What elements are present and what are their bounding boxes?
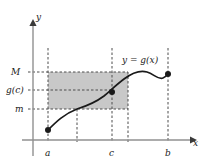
graph-canvas xyxy=(0,0,203,168)
x-tick-label-c: c xyxy=(109,149,114,158)
x-tick-label-b: b xyxy=(165,149,171,158)
point-c xyxy=(109,89,115,95)
y-tick-label-m: m xyxy=(15,105,24,114)
x-tick-label-a: a xyxy=(45,149,50,158)
curve-equation-label: y = g(x) xyxy=(122,56,158,65)
x-axis-label: x xyxy=(193,139,198,148)
y-tick-label-M: M xyxy=(11,68,20,77)
point-left-endpoint xyxy=(45,127,51,133)
y-tick-label-gc: g(c) xyxy=(6,86,24,95)
y-axis-label: y xyxy=(36,13,41,22)
point-right-endpoint xyxy=(165,71,171,77)
math-figure: y x M g(c) m a c b y = g(x) xyxy=(0,0,203,168)
